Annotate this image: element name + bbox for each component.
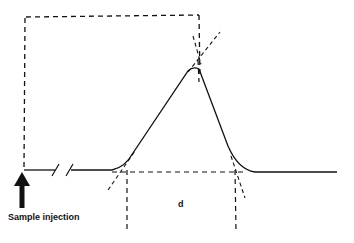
- axis-break-marks: [52, 164, 73, 176]
- tangent-lines: [108, 32, 245, 198]
- baseline: [24, 170, 337, 172]
- chromatogram-diagram: [0, 0, 354, 243]
- peak-curve: [112, 68, 255, 172]
- injection-arrow-icon: [14, 172, 30, 208]
- sample-injection-label: Sample injection: [8, 212, 80, 222]
- peak-width-label: d: [178, 199, 184, 209]
